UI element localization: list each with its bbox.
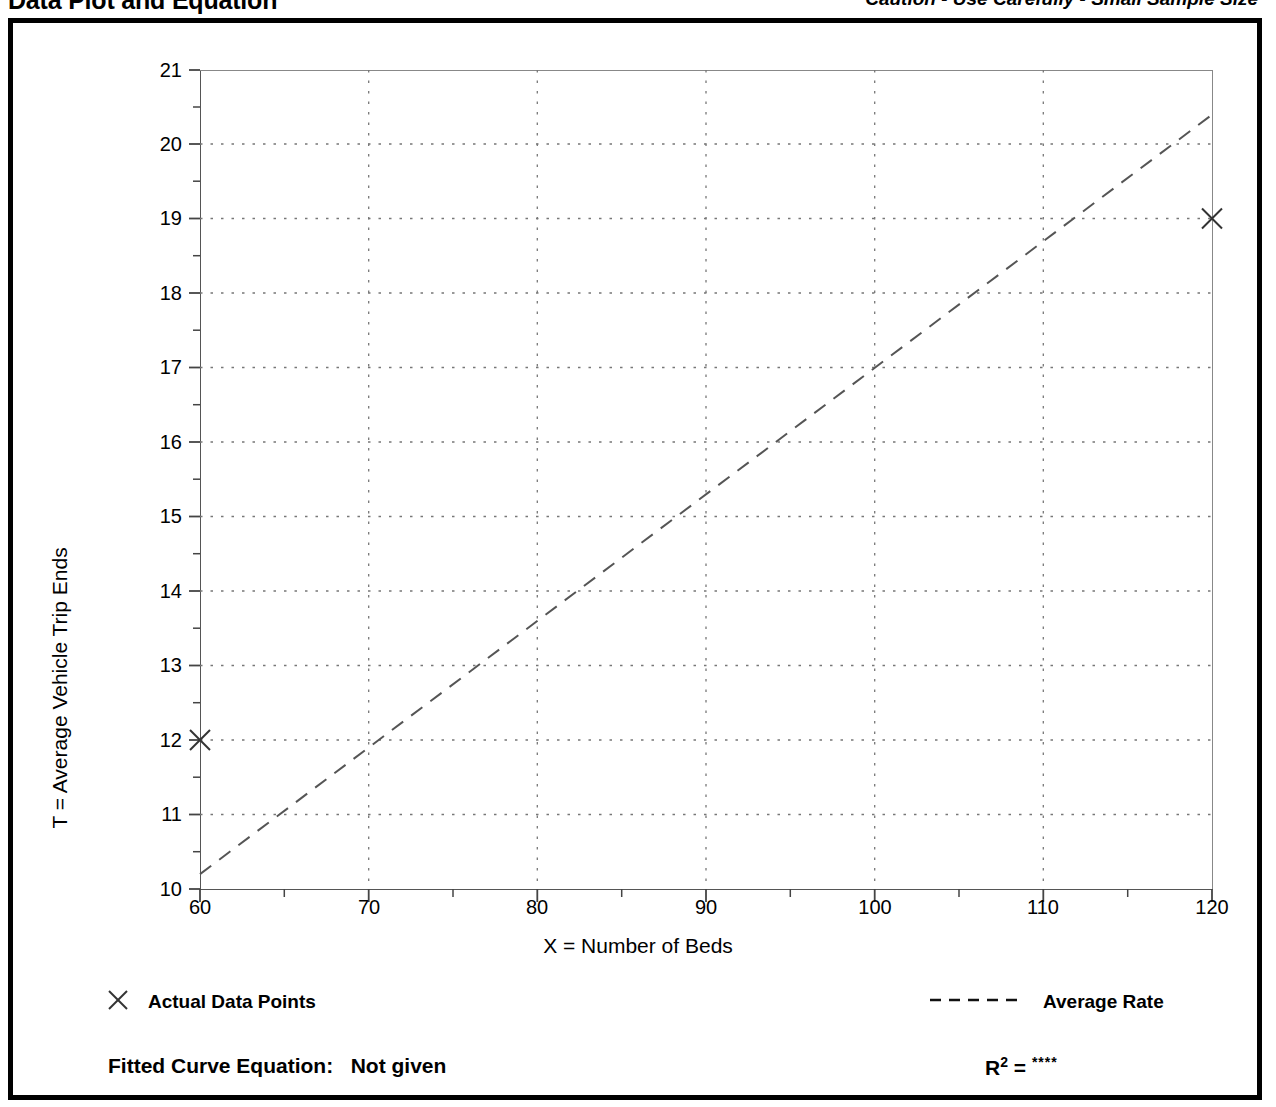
legend-x-swatch xyxy=(109,991,127,1009)
x-tick-60: 60 xyxy=(160,896,240,919)
y-tick-16: 16 xyxy=(148,432,182,452)
x-tick-120: 120 xyxy=(1172,896,1252,919)
y-tick-11: 11 xyxy=(148,804,182,824)
r-squared-symbol: R xyxy=(985,1056,1000,1079)
y-tick-13: 13 xyxy=(148,655,182,675)
y-tick-20: 20 xyxy=(148,134,182,154)
r-squared-value: R2 = **** xyxy=(985,1054,1058,1080)
plot-top-border xyxy=(200,70,1213,71)
y-minor-ticks xyxy=(193,107,200,852)
x-tick-100: 100 xyxy=(835,896,915,919)
x-tick-110: 110 xyxy=(1003,896,1083,919)
r-squared-equals: = xyxy=(1014,1056,1026,1079)
legend-label-average-rate: Average Rate xyxy=(1043,991,1164,1013)
y-axis-title-box: T = Average Vehicle Trip Ends xyxy=(48,688,78,718)
y-tick-21: 21 xyxy=(148,60,182,80)
y-axis-title: T = Average Vehicle Trip Ends xyxy=(48,547,72,828)
plot-area xyxy=(200,70,1213,890)
x-tick-80: 80 xyxy=(497,896,577,919)
y-tick-18: 18 xyxy=(148,283,182,303)
x-tick-70: 70 xyxy=(329,896,409,919)
chart-container: 21 20 19 18 17 16 15 14 13 12 11 10 60 7… xyxy=(0,0,1276,1107)
r-squared-number: **** xyxy=(1032,1054,1058,1070)
fitted-curve-equation-value: Not given xyxy=(351,1054,447,1077)
y-tick-12: 12 xyxy=(148,730,182,750)
plot-right-border xyxy=(1212,70,1213,890)
y-major-ticks xyxy=(189,70,200,889)
y-tick-15: 15 xyxy=(148,506,182,526)
y-tick-19: 19 xyxy=(148,208,182,228)
fitted-curve-equation: Fitted Curve Equation: Not given xyxy=(108,1054,446,1078)
fitted-curve-equation-label: Fitted Curve Equation: xyxy=(108,1054,333,1077)
y-tick-17: 17 xyxy=(148,357,182,377)
r-squared-exponent: 2 xyxy=(1000,1054,1008,1070)
y-tick-14: 14 xyxy=(148,581,182,601)
x-axis-title: X = Number of Beds xyxy=(0,934,1276,958)
x-tick-90: 90 xyxy=(666,896,746,919)
legend-label-actual-data-points: Actual Data Points xyxy=(148,991,316,1013)
